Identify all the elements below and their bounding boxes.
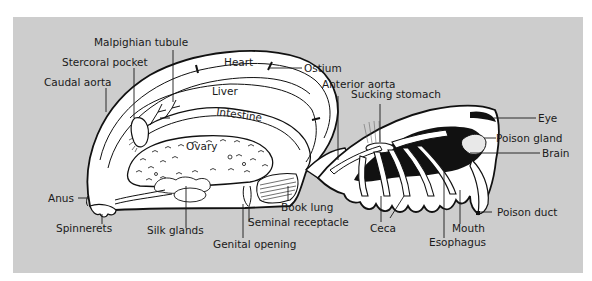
label-seminal-receptacle: Seminal receptacle <box>248 216 349 228</box>
label-stercoral-pocket: Stercoral pocket <box>62 56 148 68</box>
label-heart: Heart <box>224 56 253 68</box>
label-anus: Anus <box>48 192 74 204</box>
label-silk-glands: Silk glands <box>147 224 204 236</box>
spider-anatomy-diagram: Malpighian tubule Stercoral pocket Cauda… <box>0 0 592 281</box>
label-poison-gland: Poison gland <box>496 132 563 144</box>
label-brain: Brain <box>542 147 570 159</box>
book-lung <box>257 173 298 203</box>
label-ovary: Ovary <box>186 140 217 152</box>
label-esophagus: Esophagus <box>429 236 486 248</box>
label-liver: Liver <box>212 85 238 97</box>
label-spinnerets: Spinnerets <box>56 222 112 234</box>
label-caudal-aorta: Caudal aorta <box>44 76 112 88</box>
abdomen <box>87 51 339 217</box>
label-poison-duct: Poison duct <box>497 206 557 218</box>
label-ceca: Ceca <box>370 222 396 234</box>
label-mouth: Mouth <box>452 222 485 234</box>
cephalothorax <box>318 106 499 216</box>
label-eye: Eye <box>538 112 557 124</box>
label-sucking-stomach: Sucking stomach <box>351 88 441 100</box>
label-ostium: Ostium <box>304 62 342 74</box>
poison-duct-tip <box>476 211 480 215</box>
label-genital-opening: Genital opening <box>213 238 296 250</box>
label-book-lung: Book lung <box>281 201 333 213</box>
anus-mark <box>87 196 89 206</box>
stercoral-pocket <box>131 118 148 147</box>
label-malpighian-tubule: Malpighian tubule <box>94 36 188 48</box>
